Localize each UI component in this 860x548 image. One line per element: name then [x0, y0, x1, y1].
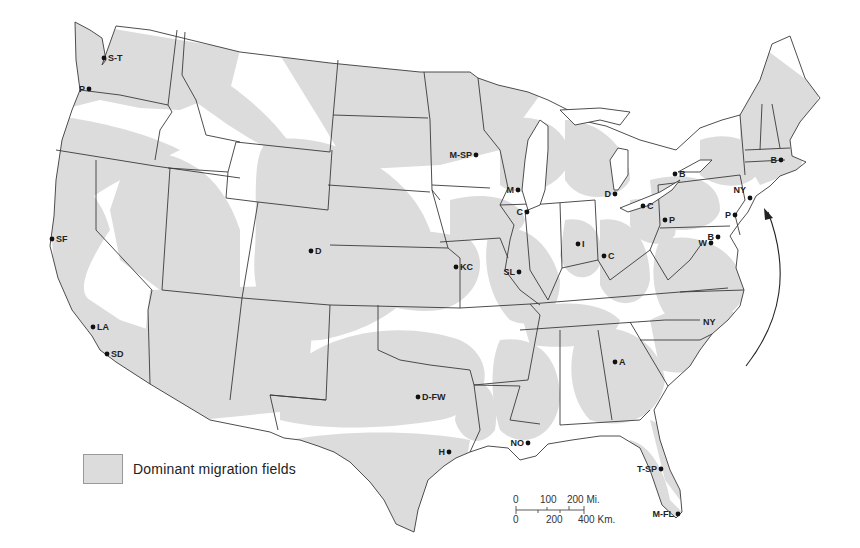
city-label: S-T	[108, 53, 123, 63]
city-label: B	[708, 232, 715, 242]
city-dot-icon	[105, 352, 110, 357]
legend-label: Dominant migration fields	[133, 461, 296, 477]
city-label: P	[669, 215, 675, 225]
city-label: SD	[111, 349, 124, 359]
region-label-nc: NY	[703, 317, 716, 327]
city-dot-icon	[50, 237, 55, 242]
city-dot-icon	[659, 467, 664, 472]
city-dot-icon	[309, 249, 314, 254]
city-label: D	[315, 246, 322, 256]
city-dot-icon	[87, 87, 92, 92]
city-dot-icon	[516, 188, 521, 193]
city-label: SF	[56, 234, 68, 244]
city-dot-icon	[613, 360, 618, 365]
city-label: I	[582, 239, 585, 249]
city-label: C	[517, 207, 524, 217]
city-dot-icon	[102, 56, 107, 61]
city-dot-icon	[454, 265, 459, 270]
legend-swatch	[83, 454, 123, 484]
city-label: A	[619, 357, 626, 367]
city-label: NY	[733, 185, 746, 195]
city-dot-icon	[709, 241, 714, 246]
scale-km-0: 0	[513, 514, 519, 525]
city-dot-icon	[779, 158, 784, 163]
city-dot-icon	[416, 395, 421, 400]
scale-mi-0: 0	[513, 494, 519, 505]
city-label: H	[439, 447, 446, 457]
city-dot-icon	[474, 153, 479, 158]
city-label: SL	[503, 267, 515, 277]
city-label: M-SP	[450, 150, 473, 160]
scale-mi-100: 100	[540, 494, 557, 505]
city-dot-icon	[663, 218, 668, 223]
city-dot-icon	[716, 235, 721, 240]
city-label: P	[725, 210, 731, 220]
scale-km-400: 400 Km.	[578, 514, 615, 525]
city-label: KC	[460, 262, 473, 272]
city-label: B	[771, 155, 778, 165]
city-label: C	[608, 251, 615, 261]
city-dot-icon	[673, 172, 678, 177]
city-label: M-FL	[653, 509, 675, 519]
legend: Dominant migration fields	[83, 454, 296, 484]
city-dot-icon	[525, 210, 530, 215]
city-dot-icon	[748, 196, 753, 201]
city-label: P	[79, 84, 85, 94]
city-dot-icon	[602, 254, 607, 259]
city-dot-icon	[526, 441, 531, 446]
scale-km-200: 200	[546, 514, 563, 525]
city-dot-icon	[576, 242, 581, 247]
city-dot-icon	[613, 192, 618, 197]
city-label: W	[699, 238, 708, 248]
city-label: D	[605, 189, 612, 199]
city-label: NO	[511, 438, 525, 448]
city-label: B	[679, 169, 686, 179]
east-coast-migration-arrow	[746, 208, 780, 366]
city-label: M	[507, 185, 515, 195]
city-dot-icon	[641, 204, 646, 209]
city-label: D-FW	[422, 392, 446, 402]
scale-bar: 0 100 200 Mi. 0 200 400 Km.	[513, 494, 615, 525]
city-dot-icon	[91, 325, 96, 330]
scale-mi-200: 200 Mi.	[567, 494, 600, 505]
city-dot-icon	[676, 512, 681, 517]
city-dot-icon	[447, 450, 452, 455]
city-label: C	[647, 201, 654, 211]
city-dot-icon	[517, 270, 522, 275]
city-label: T-SP	[637, 464, 657, 474]
city-label: LA	[97, 322, 109, 332]
city-dot-icon	[733, 213, 738, 218]
